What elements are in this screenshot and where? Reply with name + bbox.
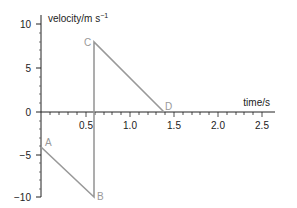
y-tick-neg10: −10 [14, 192, 31, 203]
x-tick-1.0: 1.0 [123, 120, 137, 131]
y-tick-neg5: −5 [20, 150, 32, 161]
point-label-c: C [84, 37, 91, 48]
y-tick-10: 10 [20, 19, 32, 30]
point-label-a: A [45, 137, 52, 148]
y-tick-0: 0 [25, 107, 31, 118]
x-tick-2.0: 2.0 [211, 120, 225, 131]
x-tick-0.5: 0.5 [79, 120, 93, 131]
x-axis-title: time/s [243, 97, 270, 108]
point-label-d: D [165, 101, 172, 112]
velocity-line [41, 42, 164, 197]
point-label-b: B [97, 191, 104, 202]
y-axis-title: velocity/m s−1 [48, 12, 108, 24]
x-ticks [50, 112, 262, 117]
velocity-time-chart: 10 5 0 −5 −10 0.5 1.0 1.5 2.0 2.5 veloci… [0, 0, 297, 208]
x-tick-2.5: 2.5 [255, 120, 269, 131]
x-tick-1.5: 1.5 [167, 120, 181, 131]
y-tick-5: 5 [25, 63, 31, 74]
